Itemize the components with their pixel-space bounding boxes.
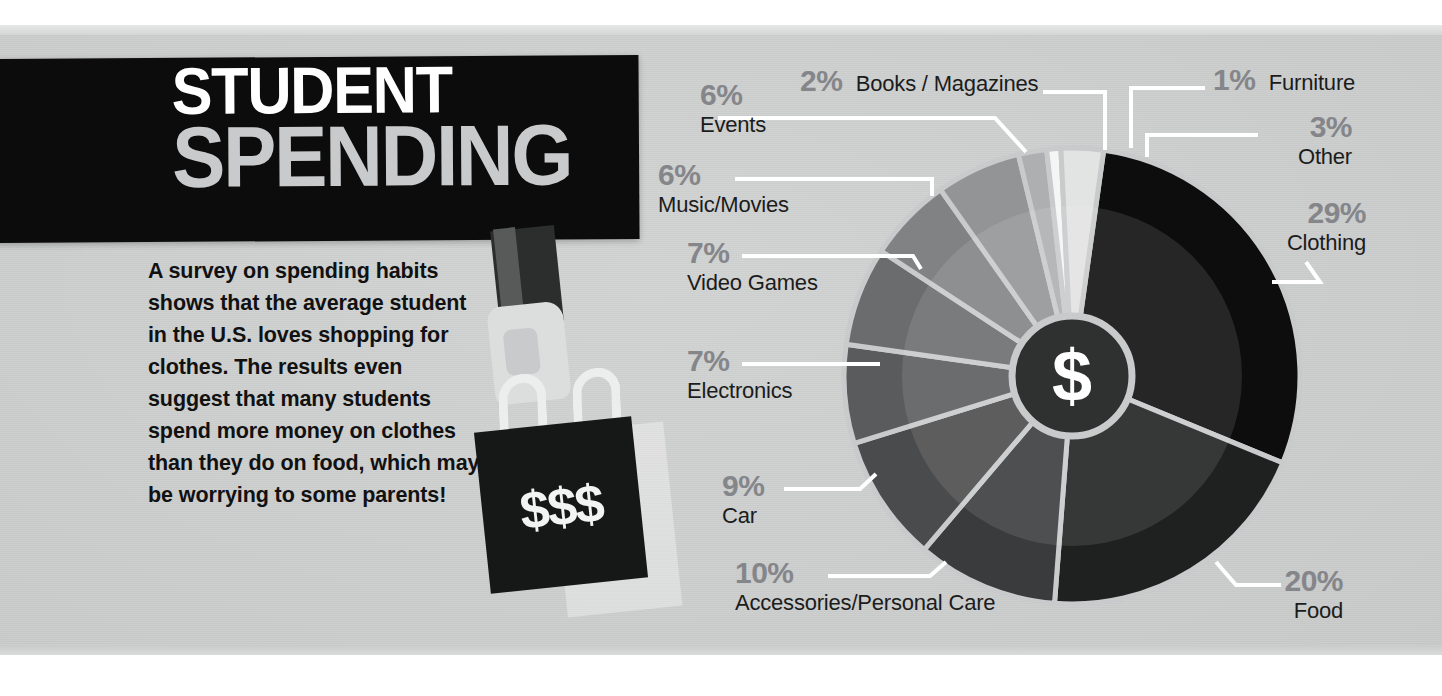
- callout-music-movies: 6% Music/Movies: [658, 160, 789, 218]
- furniture-percent: 1%: [1213, 65, 1255, 95]
- callout-electronics: 7% Electronics: [687, 346, 792, 404]
- center-dollar-icon: $: [1052, 336, 1092, 416]
- car-label: Car: [722, 504, 764, 529]
- clothing-percent: 29%: [1200, 198, 1366, 228]
- music-movies-percent: 6%: [658, 160, 789, 190]
- events-percent: 6%: [700, 80, 766, 110]
- furniture-label: Furniture: [1269, 71, 1355, 96]
- music-movies-label: Music/Movies: [658, 193, 789, 218]
- accessories-percent: 10%: [735, 558, 995, 588]
- electronics-percent: 7%: [687, 346, 792, 376]
- leader-books: [1043, 92, 1105, 150]
- accessories-label: Accessories/Personal Care: [735, 591, 995, 616]
- other-percent: 3%: [1206, 112, 1352, 142]
- callout-clothing: 29% Clothing: [1200, 198, 1366, 256]
- food-percent: 20%: [1195, 566, 1343, 596]
- callout-books-magazines: 2% Books / Magazines: [800, 66, 1038, 97]
- leader-car: [784, 474, 876, 489]
- food-label: Food: [1195, 599, 1343, 624]
- callout-furniture: 1% Furniture: [1213, 65, 1355, 96]
- callout-car: 9% Car: [722, 471, 764, 529]
- books-magazines-label: Books / Magazines: [856, 72, 1038, 97]
- car-percent: 9%: [722, 471, 764, 501]
- callout-other: 3% Other: [1206, 112, 1352, 170]
- other-label: Other: [1206, 145, 1352, 170]
- callout-accessories-personal-care: 10% Accessories/Personal Care: [735, 558, 995, 616]
- video-games-label: Video Games: [687, 271, 818, 296]
- events-label: Events: [700, 113, 766, 138]
- callout-food: 20% Food: [1195, 566, 1343, 624]
- leader-furniture: [1131, 88, 1205, 148]
- callout-events: 6% Events: [700, 80, 766, 138]
- clothing-label: Clothing: [1200, 231, 1366, 256]
- callout-video-games: 7% Video Games: [687, 238, 818, 296]
- video-games-percent: 7%: [687, 238, 818, 268]
- books-magazines-percent: 2%: [800, 66, 842, 96]
- electronics-label: Electronics: [687, 379, 792, 404]
- infographic-canvas: STUDENT SPENDING A survey on spending ha…: [0, 0, 1442, 696]
